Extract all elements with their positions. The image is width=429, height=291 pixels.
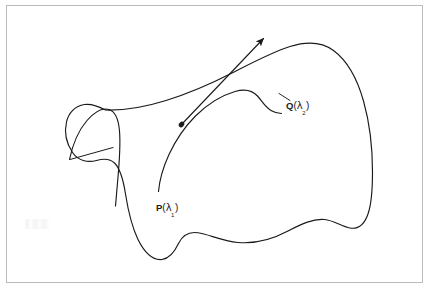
figure-root: P(λ1) Q(λ2) [0, 0, 429, 291]
label-point-q-subscript: 2 [302, 110, 305, 116]
surface-outline-curve [66, 43, 373, 260]
label-point-p: P(λ1) [156, 198, 178, 216]
tangent-vector-arrow [182, 39, 264, 125]
label-point-p-subscript: 1 [171, 212, 174, 218]
label-point-p-close-paren: ) [175, 202, 178, 213]
manifold-diagram-canvas [0, 0, 429, 291]
geodesic-curve [159, 90, 282, 191]
label-point-q: Q(λ2) [286, 96, 309, 114]
label-point-q-close-paren: ) [306, 100, 309, 111]
surface-fold-crease [70, 148, 113, 160]
